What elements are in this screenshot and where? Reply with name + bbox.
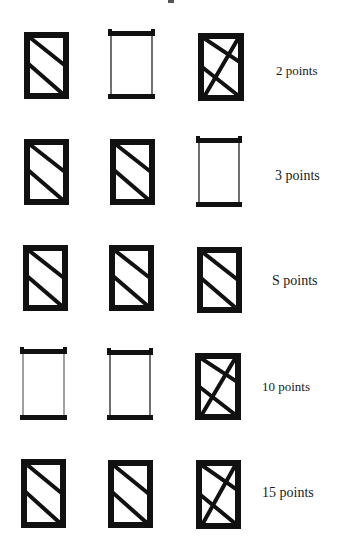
diag-two-window-icon [109, 245, 154, 311]
row-label: S points [272, 273, 318, 289]
diag-two-window-icon [24, 32, 69, 99]
row-label: 15 points [262, 485, 314, 501]
top-text-fragment [168, 0, 174, 3]
diag-two-window-icon [23, 245, 68, 311]
open-bars-thin-window-icon [20, 347, 67, 421]
open-bars-window-icon [107, 348, 153, 421]
diag-two-window-icon [197, 247, 242, 313]
open-bars-window-icon [196, 136, 242, 208]
cross-window-icon [196, 460, 241, 529]
cross-window-icon [198, 33, 244, 101]
diag-two-window-icon [108, 460, 153, 528]
row-label: 2 points [276, 63, 318, 79]
row-label: 10 points [262, 379, 310, 395]
row-label: 3 points [275, 168, 320, 184]
diag-two-window-icon [21, 459, 66, 528]
cross-window-icon [195, 353, 241, 420]
diag-two-window-icon [110, 139, 155, 205]
diag-two-window-icon [24, 139, 69, 205]
open-bars-window-icon [108, 29, 155, 100]
